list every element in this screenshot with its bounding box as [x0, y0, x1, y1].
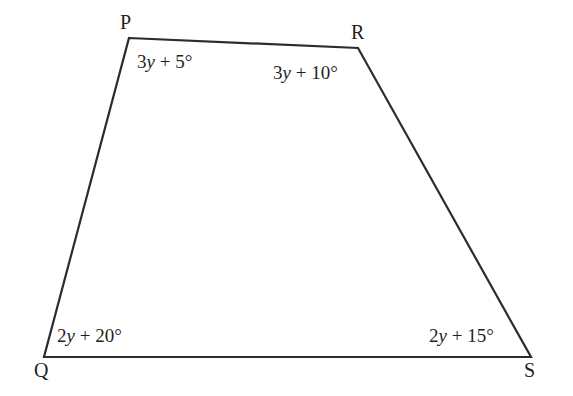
angle-label-Q: 2y + 20°: [57, 326, 122, 345]
angle-S-variable: y: [439, 325, 447, 346]
angle-label-R: 3y + 10°: [273, 63, 338, 82]
vertex-label-R: R: [351, 22, 364, 42]
angle-Q-variable: y: [67, 325, 75, 346]
vertex-label-Q: Q: [34, 360, 48, 380]
angle-S-coefficient: 2: [429, 325, 439, 346]
angle-P-constant: + 5°: [155, 51, 192, 72]
angle-label-S: 2y + 15°: [429, 326, 494, 345]
vertex-label-S: S: [524, 360, 535, 380]
angle-P-coefficient: 3: [137, 51, 147, 72]
angle-Q-coefficient: 2: [57, 325, 67, 346]
angle-R-constant: + 10°: [291, 62, 338, 83]
angle-Q-constant: + 20°: [75, 325, 122, 346]
vertex-label-P: P: [120, 12, 131, 32]
geometry-figure: P R S Q 3y + 5° 3y + 10° 2y + 20° 2y + 1…: [0, 0, 573, 396]
angle-S-constant: + 15°: [447, 325, 494, 346]
angle-R-variable: y: [283, 62, 291, 83]
angle-P-variable: y: [147, 51, 155, 72]
quadrilateral-PRSQ: [44, 38, 531, 357]
angle-R-coefficient: 3: [273, 62, 283, 83]
angle-label-P: 3y + 5°: [137, 52, 192, 71]
